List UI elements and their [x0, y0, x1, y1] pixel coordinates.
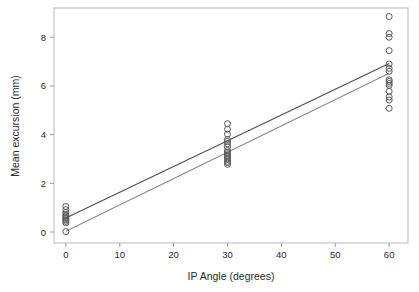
x-tick-label: 30 — [222, 249, 233, 260]
y-tick-label: 0 — [41, 227, 46, 238]
x-tick-label: 50 — [330, 249, 341, 260]
y-tick-label: 4 — [41, 129, 46, 140]
x-tick-label: 10 — [114, 249, 125, 260]
x-tick-label: 60 — [384, 249, 395, 260]
plot-canvas: 0102030405060 02468 IP Angle (degrees) M… — [0, 0, 419, 292]
y-tick-label: 6 — [41, 80, 46, 91]
scatter-plot-figure: 0102030405060 02468 IP Angle (degrees) M… — [0, 0, 419, 292]
x-axis-title: IP Angle (degrees) — [188, 270, 275, 282]
x-tick-label: 0 — [63, 249, 68, 260]
y-axis-title: Mean excursion (mm) — [9, 75, 21, 177]
x-tick-label: 20 — [168, 249, 179, 260]
y-tick-label: 2 — [41, 178, 46, 189]
x-tick-label: 40 — [276, 249, 287, 260]
y-tick-label: 8 — [41, 32, 46, 43]
